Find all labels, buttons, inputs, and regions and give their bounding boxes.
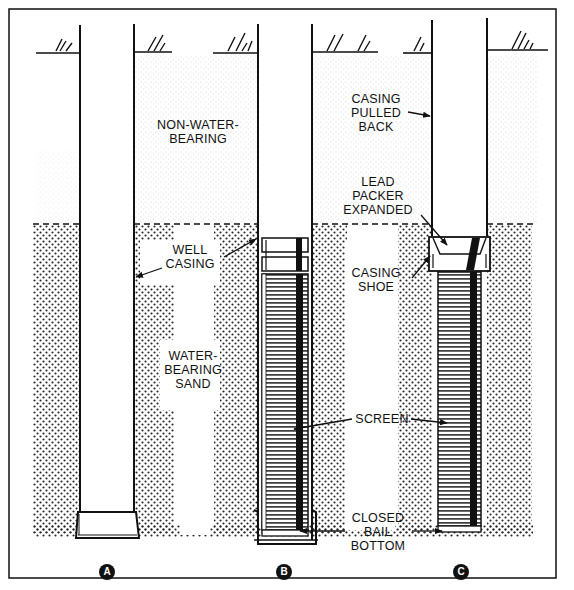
panel-c-well — [429, 18, 490, 532]
label-line: BOTTOM — [345, 539, 411, 553]
label-line: CLOSED — [345, 511, 411, 525]
label-line: LEAD — [338, 175, 418, 189]
label-line: WATER- — [160, 349, 226, 363]
panel-b-badge: B — [276, 564, 292, 580]
label-line: CASING — [343, 266, 409, 280]
label-line: SCREEN — [352, 412, 412, 426]
label-line: CASING — [158, 257, 222, 271]
label-lead-packer-expanded: LEAD PACKER EXPANDED — [338, 175, 418, 217]
label-line: BAIL — [345, 525, 411, 539]
label-casing-shoe: CASING SHOE — [343, 266, 409, 294]
label-line: WELL — [158, 243, 222, 257]
label-non-water-bearing: NON-WATER- BEARING — [150, 118, 246, 146]
label-line: SHOE — [343, 280, 409, 294]
label-well-casing: WELL CASING — [158, 243, 222, 271]
label-line: PULLED — [343, 106, 409, 120]
label-line: BACK — [343, 120, 409, 134]
panel-a-badge: A — [99, 564, 115, 580]
panel-b-well — [254, 24, 318, 544]
label-line: BEARING — [160, 363, 226, 377]
diagram-canvas — [0, 0, 574, 590]
label-line: SAND — [160, 377, 226, 391]
label-water-bearing-sand: WATER- BEARING SAND — [160, 349, 226, 391]
label-closed-bail-bottom: CLOSED BAIL BOTTOM — [345, 511, 411, 553]
label-screen: SCREEN — [352, 412, 412, 426]
well-diagram: NON-WATER- BEARING WELL CASING WATER- BE… — [0, 0, 574, 590]
label-line: CASING — [343, 92, 409, 106]
label-casing-pulled-back: CASING PULLED BACK — [343, 92, 409, 134]
label-line: BEARING — [150, 132, 246, 146]
label-line: EXPANDED — [338, 203, 418, 217]
label-line: PACKER — [338, 189, 418, 203]
label-line: NON-WATER- — [150, 118, 246, 132]
panel-a-well — [76, 24, 139, 538]
panel-c-badge: C — [453, 564, 469, 580]
